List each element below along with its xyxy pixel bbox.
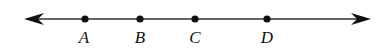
label-b: B [135, 29, 145, 46]
point-a [81, 15, 88, 22]
point-b [136, 15, 143, 22]
label-d: D [261, 29, 273, 46]
point-c [191, 15, 198, 22]
label-c: C [189, 29, 200, 46]
number-line-diagram: A B C D [0, 0, 383, 56]
point-d [263, 15, 270, 22]
label-a: A [79, 29, 89, 46]
